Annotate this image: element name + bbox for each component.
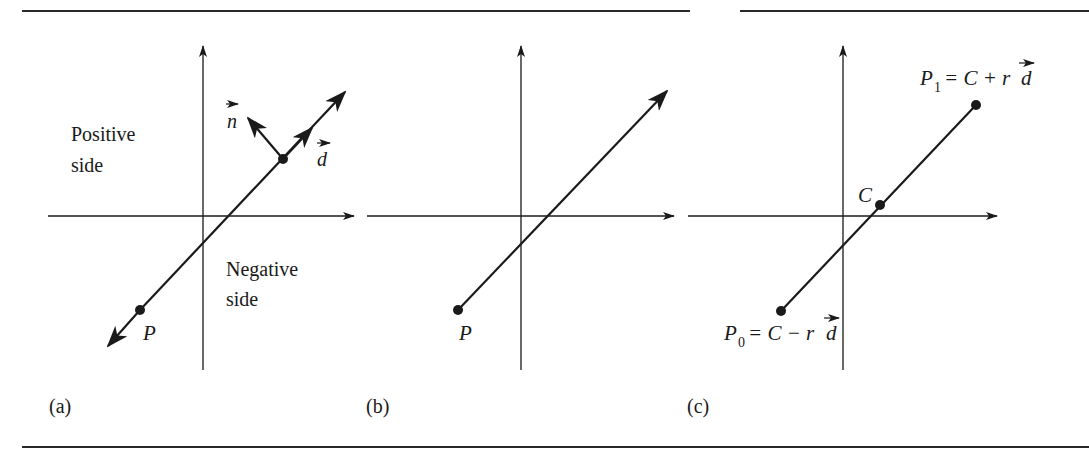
ray [458,91,667,310]
p0-equation: P 0 = C − r d [723,318,839,350]
point-p [135,305,145,315]
positive-side-label: Positive [71,123,136,145]
point-p [453,305,463,315]
p0-expression: = C − r [748,321,815,345]
figure-canvas: Positive side Negative side P n d (a) P … [0,0,1089,453]
point-on-line [278,154,288,164]
point-p1 [971,100,981,110]
negative-side-label-2: side [226,288,258,310]
p1-vector: d [1021,66,1032,90]
point-c [875,200,885,210]
positive-side-label-2: side [71,154,103,176]
caption-c: (c) [687,395,709,418]
p1-subscript: 1 [934,80,941,95]
direction-label: d [317,148,328,170]
normal-label: n [227,110,237,132]
normal-vector [248,118,283,159]
caption-a: (a) [49,395,71,418]
point-p-label: P [142,321,156,345]
direction-vector [283,128,312,159]
panel-b: P (b) [366,46,674,418]
p0-subscript: 0 [738,335,745,350]
point-p-label: P [458,321,472,345]
point-c-label: C [858,183,873,207]
point-p0 [776,306,786,316]
panel-c: C P 1 = C + r d P 0 = C − r d (c) [687,46,1034,418]
panel-a: Positive side Negative side P n d (a) [48,46,354,418]
p1-equation: P 1 = C + r d [919,63,1034,95]
p0-name: P [723,321,737,345]
line-backward [108,310,140,346]
p0-vector: d [826,321,837,345]
p1-expression: = C + r [944,66,1011,90]
p1-name: P [919,66,933,90]
caption-b: (b) [366,395,389,418]
negative-side-label: Negative [226,258,298,281]
